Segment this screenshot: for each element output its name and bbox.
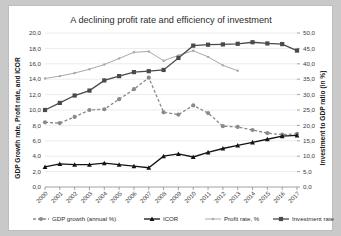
data-point — [265, 131, 269, 135]
x-tick-label: 2001 — [50, 190, 64, 204]
x-tick-label: 2003 — [80, 190, 94, 204]
data-point — [132, 87, 136, 91]
data-point — [58, 121, 62, 125]
data-point — [73, 72, 75, 74]
y-tick-label: 20,0 — [29, 29, 42, 36]
series-icor — [43, 133, 300, 170]
chart-legend: GDP growth (annual %)ICORProfit rate, %I… — [33, 215, 334, 222]
series-gdp-growth-annual — [43, 76, 299, 137]
data-point — [103, 63, 105, 65]
x-tick-label: 2002 — [65, 190, 79, 204]
y-tick-label: 18,0 — [29, 45, 42, 52]
y2-tick-label: 5,0 — [303, 168, 312, 175]
x-tick-label: 2015 — [258, 190, 272, 204]
data-point — [192, 50, 194, 52]
data-point — [73, 115, 77, 119]
y2-tick-label: 40,0 — [303, 60, 316, 67]
x-tick-label: 2007 — [139, 190, 153, 204]
data-point — [102, 107, 106, 111]
y-tick-label: 14,0 — [29, 75, 42, 82]
y-tick-label: 8,0 — [32, 122, 41, 129]
data-point — [250, 128, 254, 132]
data-point — [44, 77, 46, 79]
series-profit-rate — [44, 50, 239, 80]
data-point — [222, 64, 224, 66]
y-tick-label: 4,0 — [32, 152, 41, 159]
data-point — [58, 101, 62, 105]
y-axis-label: GDP Growth rate, Profit rate, and ICOR — [14, 57, 22, 179]
data-point — [206, 111, 210, 115]
y2-axis-ticks: 0,05,010,015,020,025,030,035,040,045,050… — [297, 29, 316, 190]
data-point — [280, 42, 284, 46]
x-tick-label: 2010 — [183, 190, 197, 204]
data-point — [147, 76, 151, 80]
y2-tick-label: 50,0 — [303, 29, 316, 36]
data-point — [161, 110, 165, 114]
data-point — [148, 50, 150, 52]
chart-canvas: A declining profit rate and efficiency o… — [9, 6, 334, 232]
data-point — [191, 103, 195, 107]
data-point — [147, 69, 151, 73]
x-tick-label: 2016 — [272, 190, 286, 204]
series-line — [45, 42, 297, 110]
y2-tick-label: 15,0 — [303, 137, 316, 144]
data-point — [118, 57, 120, 59]
data-point — [43, 120, 47, 124]
series-line — [45, 51, 238, 79]
screenshot-frame: A declining profit rate and efficiency o… — [0, 0, 341, 236]
data-point — [73, 93, 77, 97]
data-point — [117, 97, 121, 101]
data-point — [161, 68, 165, 72]
x-tick-label: 2006 — [124, 190, 138, 204]
y-tick-label: 12,0 — [29, 91, 42, 98]
data-point — [132, 70, 136, 74]
data-point — [236, 42, 240, 46]
data-point — [88, 68, 90, 70]
x-tick-label: 2017 — [287, 190, 301, 204]
legend-label[interactable]: Investment rate, % — [292, 215, 334, 222]
x-tick-label: 2009 — [169, 190, 183, 204]
data-point — [87, 108, 91, 112]
series-line — [45, 135, 297, 167]
grid-lines — [45, 33, 297, 187]
data-point — [176, 113, 180, 117]
x-tick-label: 2004 — [95, 190, 109, 204]
legend-label[interactable]: Profit rate, % — [224, 215, 260, 222]
data-point — [162, 60, 164, 62]
data-point — [117, 74, 121, 78]
data-point — [191, 44, 195, 48]
series-investment-rate — [43, 40, 299, 112]
data-point — [236, 125, 240, 129]
data-point — [43, 108, 47, 112]
legend-label[interactable]: GDP growth (annual %) — [52, 215, 116, 222]
y2-axis-label: Investment to GDP ratio (in %) — [319, 71, 327, 166]
x-axis-ticks: 2000200120022003200420052006200720082009… — [35, 187, 301, 204]
data-point — [59, 75, 61, 77]
y2-tick-label: 30,0 — [303, 91, 316, 98]
y-axis-ticks: 0,02,04,06,08,010,012,014,016,018,020,0 — [29, 29, 42, 190]
data-point — [221, 42, 225, 46]
y-tick-label: 10,0 — [29, 106, 42, 113]
data-point — [176, 56, 180, 60]
x-tick-label: 2014 — [243, 190, 257, 204]
data-point — [206, 43, 210, 47]
y2-tick-label: 0,0 — [303, 183, 312, 190]
data-point — [212, 218, 214, 220]
data-point — [207, 56, 209, 58]
data-point — [265, 41, 269, 45]
y2-tick-label: 35,0 — [303, 75, 316, 82]
series-group — [43, 40, 300, 170]
y-tick-label: 16,0 — [29, 60, 42, 67]
data-point — [279, 217, 283, 221]
y2-tick-label: 45,0 — [303, 45, 316, 52]
y2-tick-label: 20,0 — [303, 122, 316, 129]
data-point — [133, 51, 135, 53]
legend-label[interactable]: ICOR — [163, 215, 179, 222]
data-point — [221, 124, 225, 128]
x-tick-label: 2013 — [228, 190, 242, 204]
x-tick-label: 2012 — [213, 190, 227, 204]
data-point — [295, 48, 299, 52]
y-tick-label: 0,0 — [32, 183, 41, 190]
series-line — [45, 78, 297, 135]
data-point — [250, 40, 254, 44]
